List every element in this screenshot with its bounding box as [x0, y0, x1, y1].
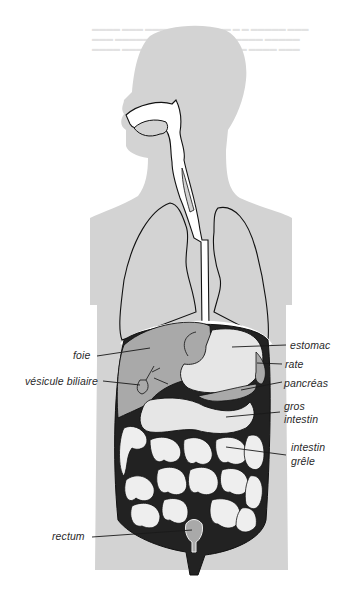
label-gros-intestin-line2: intestin	[284, 413, 318, 425]
label-gros-intestin-line1: gros	[284, 400, 305, 412]
label-foie: foie	[73, 349, 90, 361]
label-rectum: rectum	[52, 530, 85, 542]
label-intestin-grele-line1: intestin	[291, 441, 325, 453]
label-vesicule-biliaire: vésicule biliaire	[25, 375, 98, 387]
label-rate: rate	[285, 358, 304, 370]
digestive-system-diagram: ▬▬▬▬ ▬▬▬ ▬▬▬▬▬▬ ▬▬▬▬▬▬ ▬ ▬ ▬▬▬▬▬ ▬▬▬ ▬▬▬…	[0, 0, 359, 605]
label-estomac: estomac	[290, 339, 330, 351]
anatomy-illustration	[0, 0, 359, 605]
label-intestin-grele-line2: grêle	[291, 455, 315, 467]
label-pancreas: pancréas	[284, 377, 328, 389]
